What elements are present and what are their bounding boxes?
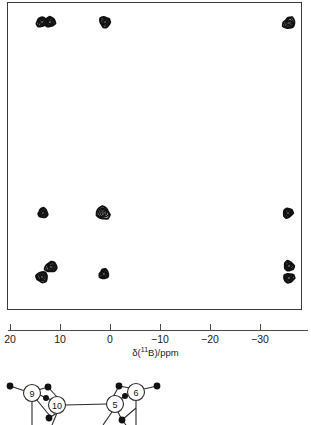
x-axis-tick [10,324,11,331]
axis-title-pre: δ( [132,347,140,358]
contour-peak [37,9,63,35]
molecule-vertex-label: 5 [112,400,117,410]
molecule-atom-dot [46,415,53,422]
molecule-svg: 91056 [0,372,311,425]
contour-peak [276,265,302,291]
x-axis-tick-label: 10 [54,333,66,345]
contour-peak [90,200,116,226]
nmr-figure: 20100−10−20−30 δ(11B)/ppm 91056 [0,0,311,425]
molecule-atom-dot [7,383,14,390]
spectrum-plot-area [7,2,302,310]
molecule-atom-dot [119,417,126,424]
x-axis-tick-label: 20 [4,333,16,345]
axis-title-isotope: 11 [141,346,148,353]
contour-peak [29,264,55,290]
x-axis-tick-label: −20 [201,333,219,345]
x-axis-tick [60,324,61,331]
molecule-bond [65,404,107,405]
molecule-vertex-label: 9 [29,389,34,399]
contour-peak [29,9,55,35]
x-axis-tick [210,324,211,331]
molecule-bond [36,399,50,416]
contour-peak [92,9,118,35]
contour-peak [276,10,302,36]
axis-title-post: B)/ppm [148,347,179,358]
x-axis-tick [260,324,261,331]
x-axis-tick [160,324,161,331]
contour-peak [275,200,301,226]
x-axis-line [8,330,308,331]
molecule-vertex-label: 10 [52,401,62,411]
molecule-vertex-label: 6 [133,388,138,398]
contour-peak [276,253,302,279]
x-axis-tick-label: −10 [151,333,169,345]
x-axis-title: δ(11B)/ppm [0,346,311,358]
x-axis-tick [110,324,111,331]
molecule-atom-dot [122,393,128,399]
contour-peak [38,254,64,280]
cluster-skeleton-diagram: 91056 [0,372,311,425]
molecule-atom-dot [43,395,49,401]
contour-peak [30,200,56,226]
molecule-atom-dot [116,383,123,390]
molecule-atom-dot [154,383,161,390]
molecule-bond [103,412,112,425]
contour-peak [91,261,117,287]
molecule-atom-dot [45,384,52,391]
x-axis: 20100−10−20−30 [0,316,311,366]
x-axis-tick-label: −30 [251,333,269,345]
x-axis-tick-label: 0 [107,333,113,345]
